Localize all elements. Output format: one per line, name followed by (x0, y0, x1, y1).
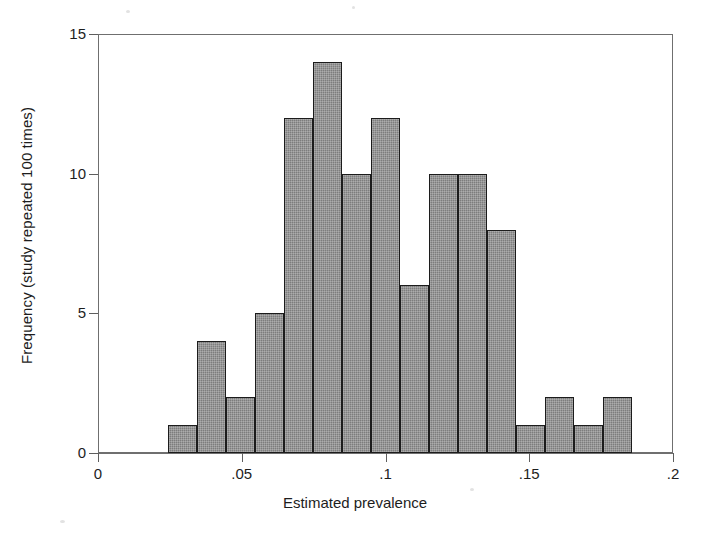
histogram-bar (342, 174, 371, 453)
y-axis-tick (89, 453, 98, 454)
y-axis-tick (89, 34, 98, 35)
scan-artifact (352, 6, 355, 9)
x-axis-tick (242, 453, 243, 462)
x-axis-tick-label: 0 (68, 466, 128, 481)
y-axis-tick (89, 313, 98, 314)
y-axis-tick-label: 0 (56, 445, 86, 460)
y-axis-tick-label: 5 (56, 305, 86, 320)
x-axis-tick-label: .05 (212, 466, 272, 481)
x-axis-tick (98, 453, 99, 462)
x-axis-tick (386, 453, 387, 462)
scan-artifact (126, 10, 130, 13)
y-axis-tick-label: 15 (56, 26, 86, 41)
histogram-bar (429, 174, 458, 453)
histogram-bar (313, 62, 342, 453)
y-axis-tick (89, 174, 98, 175)
histogram-bar (458, 174, 487, 453)
histogram-bar (197, 341, 226, 453)
scan-artifact (470, 488, 474, 491)
x-axis-title: Estimated prevalence (0, 494, 710, 511)
histogram-bar (516, 425, 545, 453)
histogram-bar (284, 118, 313, 453)
histogram-bar (400, 285, 429, 453)
histogram-figure: Frequency (study repeated 100 times) 051… (0, 0, 710, 545)
histogram-bar (168, 425, 197, 453)
histogram-bar (545, 397, 574, 453)
scan-artifact (60, 520, 65, 523)
histogram-bars (98, 34, 673, 453)
histogram-bar (574, 425, 603, 453)
x-axis-tick (529, 453, 530, 462)
y-axis-title-text: Frequency (study repeated 100 times) (19, 106, 36, 363)
histogram-bar (487, 230, 516, 454)
x-axis-tick (673, 453, 674, 462)
y-axis-line (98, 34, 99, 453)
y-axis-tick-labels: 051015 (50, 0, 86, 545)
x-axis-tick-label: .15 (499, 466, 559, 481)
y-axis-tick-label: 10 (56, 166, 86, 181)
histogram-bar (255, 313, 284, 453)
histogram-bar (371, 118, 400, 453)
x-axis-tick-label: .2 (643, 466, 703, 481)
x-axis-tick-label: .1 (356, 466, 416, 481)
histogram-bar (226, 397, 255, 453)
histogram-bar (603, 397, 632, 453)
y-axis-title: Frequency (study repeated 100 times) (10, 0, 44, 470)
